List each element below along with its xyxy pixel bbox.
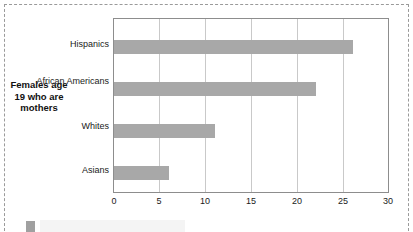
plot-area [113, 18, 389, 193]
chart-figure: Females age 19 who are mothers Hispanics… [0, 0, 413, 232]
xtick-label-25: 25 [338, 196, 348, 206]
category-label-asians: Asians [9, 165, 113, 176]
category-label-group: Hispanics African Americans Whites Asian… [0, 18, 113, 193]
bar-asians [114, 166, 169, 180]
plot-inner [114, 19, 388, 192]
bar-hispanics [114, 40, 353, 54]
xtick-label-0: 0 [111, 196, 116, 206]
category-label-african-americans: African Americans [9, 76, 113, 87]
legend-swatch-icon [26, 221, 35, 232]
bar-african-americans [114, 82, 316, 96]
legend-background [40, 220, 185, 232]
xtick-label-10: 10 [200, 196, 210, 206]
xtick-label-15: 15 [246, 196, 256, 206]
category-label-hispanics: Hispanics [9, 39, 113, 50]
xtick-label-5: 5 [156, 196, 161, 206]
bar-whites [114, 124, 215, 138]
category-label-whites: Whites [9, 121, 113, 132]
xtick-label-20: 20 [292, 196, 302, 206]
xtick-label-30: 30 [383, 196, 393, 206]
chart-legend [26, 221, 43, 232]
